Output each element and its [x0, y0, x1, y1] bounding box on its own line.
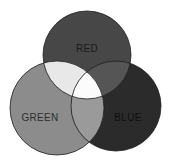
red-label: RED — [76, 43, 98, 54]
blue-label: BLUE — [114, 112, 141, 123]
venn-diagram: RED GREEN BLUE — [0, 0, 174, 166]
green-label: GREEN — [21, 112, 58, 123]
